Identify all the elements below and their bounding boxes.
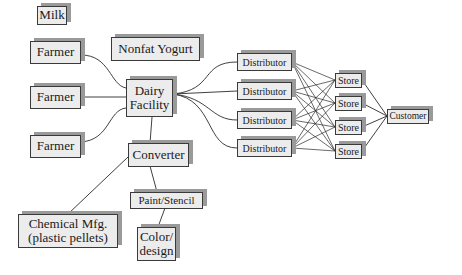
distributor-node-2: Distributor xyxy=(237,82,292,100)
paint-stencil-node: Paint/Stencil xyxy=(130,192,203,209)
color-design-node: Color/ design xyxy=(137,227,176,261)
chemical-mfg-node: Chemical Mfg. (plastic pellets) xyxy=(18,214,118,248)
store-node-2: Store xyxy=(335,96,362,111)
farmer-node-1: Farmer xyxy=(30,41,81,64)
converter-node: Converter xyxy=(128,143,189,167)
store-node-4: Store xyxy=(335,144,362,159)
milk-label: Milk xyxy=(37,6,67,25)
store-node-3: Store xyxy=(335,120,362,135)
store-node-1: Store xyxy=(335,73,362,88)
distributor-node-1: Distributor xyxy=(237,53,292,71)
distributor-node-3: Distributor xyxy=(237,111,292,129)
farmer-node-3: Farmer xyxy=(30,135,81,158)
dairy-facility-node: Dairy Facility xyxy=(126,79,173,117)
nonfat-yogurt-node: Nonfat Yogurt xyxy=(111,37,200,61)
customer-node: Customer xyxy=(387,109,429,124)
distributor-node-4: Distributor xyxy=(237,139,292,157)
farmer-node-2: Farmer xyxy=(30,86,81,109)
